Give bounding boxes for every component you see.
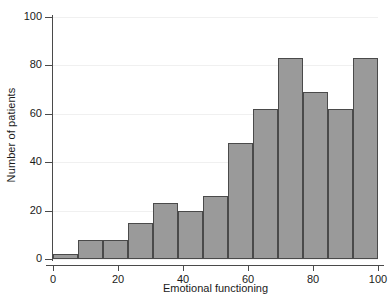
histogram-bar bbox=[278, 58, 303, 259]
plot-area bbox=[53, 17, 378, 259]
histogram-bar bbox=[103, 240, 128, 259]
x-tick-mark bbox=[183, 265, 184, 271]
x-tick-mark bbox=[248, 265, 249, 271]
y-axis-title: Number of patients bbox=[0, 0, 22, 270]
y-tick-mark bbox=[45, 162, 52, 163]
histogram-bar bbox=[153, 203, 178, 259]
y-tick-label: 40 bbox=[0, 155, 42, 167]
x-axis-line bbox=[46, 265, 384, 266]
x-tick-mark bbox=[53, 265, 54, 271]
y-tick-mark bbox=[45, 114, 52, 115]
gridline bbox=[53, 259, 378, 260]
y-tick-mark bbox=[45, 17, 52, 18]
y-tick-label: 80 bbox=[0, 58, 42, 70]
y-tick-mark bbox=[45, 259, 52, 260]
y-tick-label: 0 bbox=[0, 252, 42, 264]
histogram-bar bbox=[203, 196, 228, 259]
histogram-bar bbox=[328, 109, 353, 259]
y-axis-line bbox=[52, 15, 53, 261]
histogram-bar bbox=[53, 254, 78, 259]
y-tick-label: 60 bbox=[0, 107, 42, 119]
histogram-bar bbox=[303, 92, 328, 259]
x-tick-mark bbox=[313, 265, 314, 271]
histogram-bar bbox=[228, 143, 253, 259]
x-tick-mark bbox=[118, 265, 119, 271]
y-tick-label: 100 bbox=[0, 10, 42, 22]
histogram-bar bbox=[128, 223, 153, 259]
histogram-bar bbox=[178, 211, 203, 259]
y-tick-mark bbox=[45, 65, 52, 66]
x-tick-mark bbox=[378, 265, 379, 271]
bar-series bbox=[53, 17, 378, 259]
y-tick-mark bbox=[45, 211, 52, 212]
y-tick-label: 20 bbox=[0, 204, 42, 216]
histogram-bar bbox=[78, 240, 103, 259]
y-axis-title-text: Number of patients bbox=[5, 88, 17, 183]
x-axis-title: Emotional functioning bbox=[53, 282, 378, 294]
histogram-bar bbox=[353, 58, 378, 259]
histogram-bar bbox=[253, 109, 278, 259]
